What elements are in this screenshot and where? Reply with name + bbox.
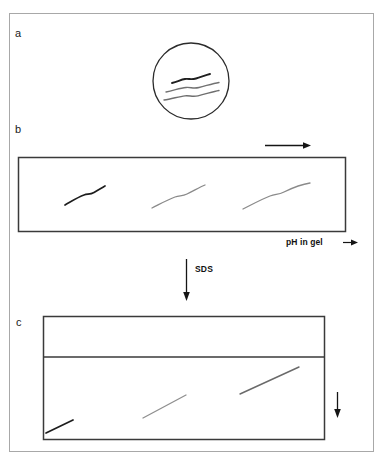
panel-label-a: a bbox=[15, 28, 21, 39]
panel-b-gel-box bbox=[19, 158, 346, 232]
ph-axis-label: pH in gel bbox=[286, 238, 323, 247]
sds-step-label: SDS bbox=[195, 265, 213, 274]
panel-label-c: c bbox=[16, 317, 22, 328]
panel-c-gel-box bbox=[44, 317, 325, 440]
panel-c-group bbox=[44, 317, 341, 440]
figure-vector-layer bbox=[0, 0, 388, 461]
panel-label-b: b bbox=[15, 124, 21, 135]
figure-canvas: a b c pH in gel SDS bbox=[0, 0, 388, 461]
panel-b-group bbox=[19, 142, 359, 245]
